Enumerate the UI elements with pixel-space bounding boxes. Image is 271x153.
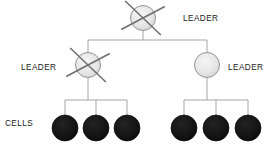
- diagram-labels: LEADERLEADERLEADERCELLS: [5, 14, 263, 128]
- cell-nodes: [52, 115, 261, 141]
- diagram-canvas: LEADERLEADERLEADERCELLS: [0, 0, 271, 153]
- label-leader-left: LEADER: [21, 63, 56, 72]
- cell-node-cell-5[interactable]: [203, 115, 229, 141]
- tree-diagram: LEADERLEADERLEADERCELLS: [0, 0, 271, 153]
- cell-node-cell-2[interactable]: [83, 115, 109, 141]
- cell-node-cell-1[interactable]: [52, 115, 78, 141]
- leader-node-right-leader[interactable]: [195, 53, 220, 78]
- label-leader-right: LEADER: [228, 63, 263, 72]
- label-cells: CELLS: [5, 119, 33, 128]
- cell-node-cell-6[interactable]: [235, 115, 261, 141]
- label-leader-top: LEADER: [183, 14, 218, 23]
- cell-node-cell-4[interactable]: [171, 115, 197, 141]
- cell-node-cell-3[interactable]: [114, 115, 140, 141]
